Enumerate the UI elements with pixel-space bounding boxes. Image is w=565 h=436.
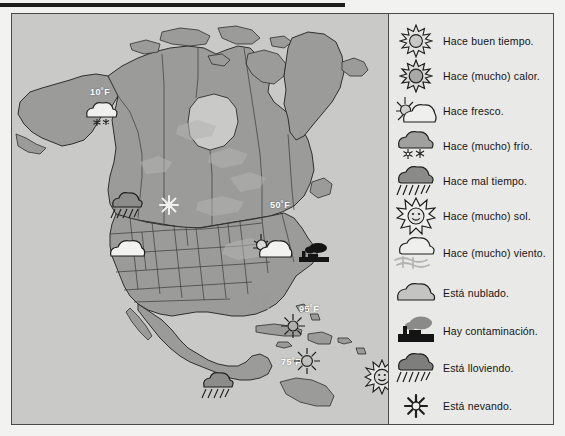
snowflake-icon	[158, 194, 180, 220]
legend-item-mal-tiempo[interactable]: Hace mal tiempo.	[389, 164, 553, 198]
region-south-america-tip	[280, 378, 334, 406]
factory-icon	[389, 315, 443, 347]
legend-item-viento[interactable]: Hace (mucho) viento.	[389, 236, 553, 270]
snowflake-icon	[389, 393, 443, 419]
legend-panel[interactable]: Hace buen tiempo. Hace (mucho) calor.	[389, 14, 553, 424]
legend-item-contaminacion[interactable]: Hay contaminación.	[389, 314, 553, 348]
island-hispaniola	[308, 332, 332, 344]
bright-sun-icon	[389, 59, 443, 93]
map-panel[interactable]: .land{fill:#9b9b99;stroke:#2e2e2e;stroke…	[12, 14, 389, 424]
legend-item-nevando[interactable]: Está nevando.	[389, 389, 553, 423]
rain-cloud-icon	[389, 352, 443, 384]
legend-item-nublado[interactable]: Está nublado.	[389, 276, 553, 310]
wind-cloud-icon	[389, 236, 443, 270]
region-greenland	[284, 32, 344, 140]
legend-item-sol[interactable]: Hace (mucho) sol.	[389, 199, 553, 233]
legend-item-lloviendo[interactable]: Está lloviendo.	[389, 351, 553, 385]
island-puertorico	[338, 338, 352, 344]
legend-item-label: Hace (mucho) sol.	[443, 210, 531, 222]
legend-item-label: Hace (mucho) viento.	[443, 247, 546, 259]
legend-item-label: Hace (mucho) frío.	[443, 140, 533, 152]
sun-behind-cloud-icon	[250, 232, 294, 266]
island-bahamas-1	[296, 304, 308, 312]
cloud-icon	[389, 281, 443, 305]
legend-item-label: Está nublado.	[443, 287, 509, 299]
cloud-icon	[107, 236, 147, 264]
sun-behind-cloud-icon	[389, 96, 443, 126]
legend-item-fresco[interactable]: Hace fresco.	[389, 94, 553, 128]
region-newfoundland	[310, 178, 332, 198]
north-america-map-svg: .land{fill:#9b9b99;stroke:#2e2e2e;stroke…	[12, 14, 389, 424]
worksheet-frame: .land{fill:#9b9b99;stroke:#2e2e2e;stroke…	[11, 13, 554, 425]
sun-icon-florida	[280, 313, 306, 343]
legend-item-calor[interactable]: Hace (mucho) calor.	[389, 59, 553, 93]
legend-item-frio[interactable]: Hace (mucho) frío.	[389, 129, 553, 163]
legend-item-buen-tiempo[interactable]: Hace buen tiempo.	[389, 24, 553, 58]
region-arctic-islands-3	[130, 40, 160, 54]
legend-item-label: Está nevando.	[443, 400, 512, 412]
factory-icon	[297, 242, 331, 270]
snow-cloud-icon	[80, 97, 120, 131]
rain-cloud-icon	[389, 165, 443, 197]
island-bahamas-2	[310, 314, 320, 320]
legend-item-label: Hace (mucho) calor.	[443, 70, 540, 82]
rain-cloud-icon-central	[198, 369, 236, 405]
sun-icon	[389, 24, 443, 58]
rain-cloud-icon	[107, 189, 145, 225]
region-iceland	[342, 58, 368, 76]
high-pressure-symbol: H	[249, 286, 269, 316]
sun-icon-cuba	[293, 347, 321, 379]
island-lesser-antilles	[356, 348, 366, 354]
legend-item-label: Hay contaminación.	[443, 325, 538, 337]
big-sun-icon	[389, 197, 443, 235]
legend-item-label: Hace buen tiempo.	[443, 35, 534, 47]
legend-item-label: Hace mal tiempo.	[443, 175, 527, 187]
top-rule	[0, 3, 345, 7]
legend-item-label: Está lloviendo.	[443, 362, 514, 374]
region-arctic-islands-1	[160, 28, 210, 46]
snow-cloud-icon	[389, 130, 443, 162]
smiling-sun-icon	[364, 359, 389, 399]
legend-item-label: Hace fresco.	[443, 105, 504, 117]
region-arctic-islands-2	[218, 26, 260, 44]
